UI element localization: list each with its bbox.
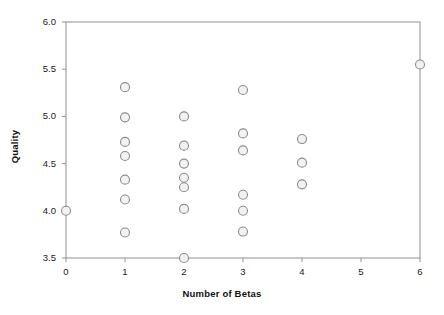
x-axis-tick-label: 2 xyxy=(174,266,194,277)
data-point xyxy=(298,135,307,144)
data-point xyxy=(180,204,189,213)
x-axis-tick-label: 4 xyxy=(292,266,312,277)
data-point xyxy=(180,183,189,192)
y-axis-title: Quality xyxy=(9,117,20,177)
x-axis-tick-label: 3 xyxy=(233,266,253,277)
data-point xyxy=(121,137,130,146)
data-point xyxy=(180,141,189,150)
data-point xyxy=(121,113,130,122)
data-point xyxy=(121,228,130,237)
data-point xyxy=(298,158,307,167)
y-axis-tick-label: 4.0 xyxy=(30,205,56,216)
data-point xyxy=(180,254,189,263)
y-axis-tick-label: 5.5 xyxy=(30,63,56,74)
data-point xyxy=(180,112,189,121)
data-point xyxy=(239,206,248,215)
data-point xyxy=(239,190,248,199)
data-point xyxy=(121,195,130,204)
data-point xyxy=(180,159,189,168)
data-point xyxy=(239,227,248,236)
y-axis-tick-label: 6.0 xyxy=(30,16,56,27)
y-axis-tick-label: 4.5 xyxy=(30,158,56,169)
data-point xyxy=(416,60,425,69)
data-point xyxy=(121,152,130,161)
x-axis-tick-label: 1 xyxy=(115,266,135,277)
y-axis-tick-label: 3.5 xyxy=(30,252,56,263)
plot-frame xyxy=(66,22,420,258)
y-axis-tick-label: 5.0 xyxy=(30,110,56,121)
data-point xyxy=(121,175,130,184)
data-point xyxy=(298,180,307,189)
data-point xyxy=(239,129,248,138)
data-point xyxy=(121,83,130,92)
x-axis-title: Number of Betas xyxy=(0,288,444,299)
data-point xyxy=(62,206,71,215)
x-axis-tick-label: 6 xyxy=(410,266,430,277)
x-axis-tick-label: 5 xyxy=(351,266,371,277)
data-point xyxy=(239,146,248,155)
data-point xyxy=(180,173,189,182)
x-axis-tick-label: 0 xyxy=(56,266,76,277)
data-point xyxy=(239,85,248,94)
scatter-chart: Quality Number of Betas 3.54.04.55.05.56… xyxy=(0,0,444,315)
